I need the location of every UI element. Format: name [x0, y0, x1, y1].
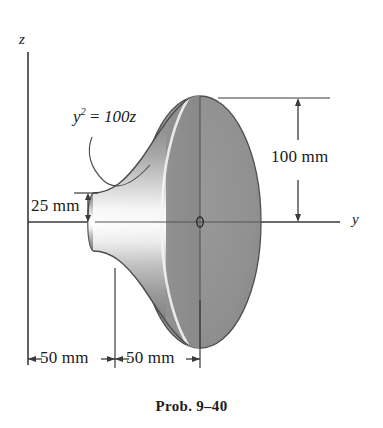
equation-exponent: 2: [81, 106, 86, 117]
z-axis-label: z: [19, 32, 25, 47]
curve-equation-label: y2 = 100z: [73, 108, 136, 125]
y-axis-label: y: [352, 212, 359, 227]
arrowhead-100mm-up: [295, 98, 301, 106]
figure-caption: Prob. 9–40: [0, 398, 383, 415]
dimension-label-100mm: 100 mm: [271, 148, 328, 165]
figure-container: z y O y2 = 100z 25 mm 100 mm 50 mm 50 mm…: [0, 0, 383, 428]
arrowhead-50mm-left-outer: [28, 356, 36, 362]
dimension-label-25mm: 25 mm: [31, 197, 80, 214]
arrowhead-25mm-up: [85, 193, 91, 200]
arrowhead-50mm-right-inner: [115, 356, 123, 362]
dimension-label-50mm-left: 50 mm: [40, 349, 89, 366]
equation-variable: y: [73, 107, 81, 126]
arrowhead-50mm-right-outer: [192, 356, 200, 362]
dimension-label-50mm-right: 50 mm: [126, 349, 175, 366]
arrowhead-100mm-down: [295, 214, 301, 222]
equation-expression: 100z: [104, 107, 136, 126]
arrowhead-50mm-left-inner: [107, 356, 115, 362]
equation-relation: =: [90, 107, 100, 126]
solid-of-revolution: [88, 96, 261, 348]
